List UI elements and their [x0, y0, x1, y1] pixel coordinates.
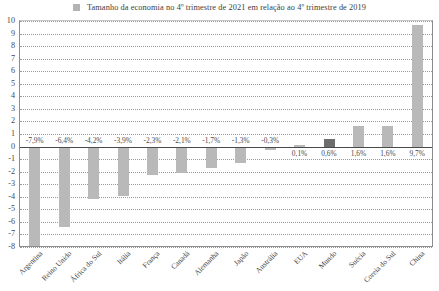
- bar-value-label: 9,7%: [397, 149, 437, 158]
- y-tick-label: 10: [0, 16, 15, 25]
- y-tick-label: 1: [0, 129, 15, 138]
- x-axis-category-labels: ArgentinaReino UnidoÁfrica do SulItáliaF…: [19, 249, 433, 291]
- bar: [88, 147, 99, 200]
- y-tick-label: -4: [0, 191, 15, 200]
- bar: [29, 147, 40, 246]
- y-tick-label: 6: [0, 66, 15, 75]
- y-tick-label: -7: [0, 229, 15, 238]
- bar: [382, 126, 393, 146]
- bar: [235, 147, 246, 163]
- gridline: [20, 247, 432, 248]
- y-tick-label: 3: [0, 103, 15, 112]
- bar: [353, 126, 364, 146]
- y-tick-label: 4: [0, 91, 15, 100]
- y-tick-label: -3: [0, 179, 15, 188]
- bar: [206, 147, 217, 168]
- bar-value-label: -0,3%: [250, 136, 290, 145]
- y-tick-label: -8: [0, 242, 15, 251]
- y-tick-label: -2: [0, 166, 15, 175]
- plot-area: -7,9%-6,4%-4,2%-3,9%-2,3%-2,1%-1,7%-1,3%…: [19, 20, 433, 247]
- bar: [59, 147, 70, 227]
- y-tick-label: 5: [0, 78, 15, 87]
- bar: [176, 147, 187, 173]
- y-tick-label: 8: [0, 41, 15, 50]
- y-tick-label: -5: [0, 204, 15, 213]
- legend-swatch-icon: [73, 4, 80, 11]
- bar-chart: Tamanho da economia no 4º trimestre de 2…: [0, 0, 439, 291]
- y-tick-label: 0: [0, 141, 15, 150]
- bar: [147, 147, 158, 176]
- chart-legend: Tamanho da economia no 4º trimestre de 2…: [0, 0, 439, 14]
- bar: [118, 147, 129, 196]
- zero-baseline: [20, 147, 432, 148]
- y-tick-label: -1: [0, 154, 15, 163]
- y-tick-label: 7: [0, 53, 15, 62]
- y-tick-label: -6: [0, 216, 15, 225]
- legend-label: Tamanho da economia no 4º trimestre de 2…: [87, 3, 366, 12]
- y-tick-label: 2: [0, 116, 15, 125]
- bar: [324, 139, 335, 147]
- y-tick-label: 9: [0, 28, 15, 37]
- bar: [412, 25, 423, 147]
- bar-series: -7,9%-6,4%-4,2%-3,9%-2,3%-2,1%-1,7%-1,3%…: [20, 21, 432, 247]
